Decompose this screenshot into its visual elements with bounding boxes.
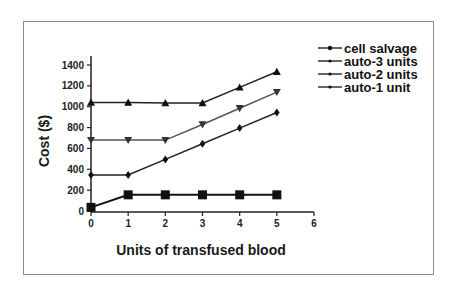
series-line	[91, 195, 277, 208]
diamond-marker	[163, 155, 169, 163]
legend-marker	[328, 59, 331, 62]
legend-label: auto-1 unit	[344, 80, 411, 95]
axes: 02004006008001000120014000123456	[62, 56, 317, 229]
y-tick-label: 400	[67, 164, 84, 175]
diamond-marker	[274, 108, 280, 116]
x-tick-label: 3	[200, 218, 206, 229]
y-axis-title: Cost ($)	[36, 115, 52, 167]
square-marker	[161, 190, 170, 199]
series-line	[91, 112, 277, 175]
x-tick-label: 2	[163, 218, 169, 229]
series-auto-1-unit	[88, 108, 279, 179]
legend-marker	[328, 46, 332, 50]
x-tick-label: 5	[274, 218, 280, 229]
x-tick-label: 0	[88, 218, 94, 229]
square-marker	[87, 203, 96, 212]
x-tick-label: 4	[237, 218, 243, 229]
legend: cell salvageauto-3 unitsauto-2 unitsauto…	[318, 41, 418, 95]
y-tick-label: 1400	[62, 60, 85, 71]
square-marker	[272, 190, 281, 199]
x-tick-label: 6	[311, 218, 317, 229]
square-marker	[235, 190, 244, 199]
line-chart: 02004006008001000120014000123456 Units o…	[0, 0, 457, 295]
x-axis-title: Units of transfused blood	[116, 242, 286, 258]
triangle-up-marker	[273, 68, 281, 75]
series-cell-salvage	[87, 190, 282, 212]
diamond-marker	[125, 171, 131, 179]
y-tick-label: 0	[78, 206, 84, 217]
diamond-marker	[200, 140, 206, 148]
diamond-marker	[88, 171, 94, 179]
x-tick-label: 1	[125, 218, 131, 229]
series-auto-2-units	[87, 89, 281, 144]
y-tick-label: 1000	[62, 101, 85, 112]
legend-marker	[328, 72, 331, 75]
square-marker	[124, 190, 133, 199]
legend-marker	[328, 85, 331, 88]
y-tick-label: 1200	[62, 80, 85, 91]
square-marker	[198, 190, 207, 199]
y-tick-label: 800	[67, 122, 84, 133]
y-tick-label: 200	[67, 185, 84, 196]
series-group	[87, 68, 282, 212]
y-tick-label: 600	[67, 143, 84, 154]
series-auto-3-units	[87, 68, 281, 106]
diamond-marker	[237, 124, 243, 132]
legend-item: auto-1 unit	[318, 80, 411, 95]
series-line	[91, 72, 277, 103]
series-line	[91, 92, 277, 140]
